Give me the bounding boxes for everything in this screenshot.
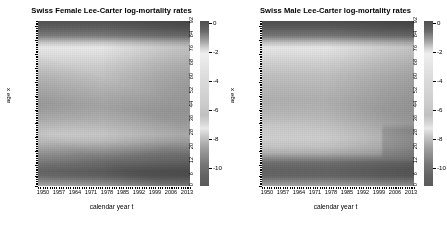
x-minor-tick — [178, 187, 179, 189]
y-tick-36: 36 — [189, 115, 195, 121]
y-tick-20: 20 — [189, 143, 195, 149]
cb-label-m10: -10 — [213, 165, 222, 171]
y-tick-68: 68 — [413, 59, 419, 65]
colorbar-gradient — [200, 21, 209, 186]
x-minor-tick — [190, 187, 191, 189]
y-tick-52: 52 — [413, 87, 419, 93]
y-minor-tick — [36, 118, 38, 119]
x-minor-tick — [112, 187, 113, 189]
x-major-tick — [395, 187, 396, 189]
y-minor-tick — [260, 162, 262, 163]
y-minor-tick — [36, 78, 38, 79]
y-minor-tick — [36, 63, 38, 64]
x-minor-tick — [135, 187, 136, 189]
x-minor-tick — [68, 187, 69, 189]
x-minor-tick — [86, 187, 87, 189]
x-minor-tick — [70, 187, 71, 189]
cb-tickmark-m8 — [209, 139, 212, 140]
x-minor-tick — [405, 187, 406, 189]
y-major-tick — [259, 110, 262, 111]
y-minor-tick — [36, 75, 38, 76]
x-minor-tick — [285, 187, 286, 189]
colorbar-gradient — [424, 21, 433, 186]
y-major-tick — [35, 151, 38, 152]
x-minor-tick — [336, 187, 337, 189]
x-minor-tick — [73, 187, 74, 189]
y-minor-tick — [260, 118, 262, 119]
y-tick-6: 6 — [413, 172, 419, 175]
x-minor-tick — [116, 187, 117, 189]
y-minor-tick — [260, 172, 262, 173]
x-minor-tick — [274, 187, 275, 189]
y-minor-tick — [260, 57, 262, 58]
x-minor-tick — [354, 187, 355, 189]
y-minor-tick — [260, 47, 262, 48]
y-major-tick — [259, 123, 262, 124]
y-minor-tick — [260, 181, 262, 182]
y-axis-title-female: age x — [4, 88, 11, 103]
x-minor-tick — [303, 187, 304, 189]
x-minor-tick — [167, 187, 168, 189]
y-minor-tick — [36, 64, 38, 65]
y-minor-tick — [260, 153, 262, 154]
y-tick-44: 44 — [413, 101, 419, 107]
x-minor-tick — [96, 187, 97, 189]
y-minor-tick — [36, 120, 38, 121]
y-minor-tick — [260, 37, 262, 38]
x-minor-tick — [414, 187, 415, 189]
x-minor-tick — [137, 187, 138, 189]
y-major-tick — [35, 40, 38, 41]
y-major-tick — [259, 151, 262, 152]
heatmap-pixel-noise — [262, 21, 414, 186]
y-tick-84: 84 — [413, 31, 419, 37]
x-minor-tick — [382, 187, 383, 189]
x-minor-tick — [278, 187, 279, 189]
y-minor-tick — [36, 61, 38, 62]
y-minor-tick — [36, 92, 38, 93]
y-minor-tick — [260, 97, 262, 98]
y-minor-tick — [260, 75, 262, 76]
y-minor-tick — [260, 64, 262, 65]
y-minor-tick — [36, 117, 38, 118]
x-major-tick — [315, 187, 316, 189]
x-minor-tick — [105, 187, 106, 189]
y-tick-60: 60 — [189, 73, 195, 79]
y-minor-tick — [36, 146, 38, 147]
y-major-tick — [35, 54, 38, 55]
x-minor-tick — [98, 187, 99, 189]
x-tick-2013: 2013 — [177, 189, 197, 195]
x-minor-tick — [290, 187, 291, 189]
x-minor-tick — [146, 187, 147, 189]
y-minor-tick — [260, 89, 262, 90]
y-minor-tick — [36, 30, 38, 31]
y-minor-tick — [260, 143, 262, 144]
x-major-tick — [187, 187, 188, 189]
x-minor-tick — [79, 187, 80, 189]
y-minor-tick — [260, 28, 262, 29]
y-minor-tick — [36, 101, 38, 102]
x-minor-tick — [38, 187, 39, 189]
cb-tickmark-m6 — [209, 110, 212, 111]
y-minor-tick — [36, 134, 38, 135]
x-minor-tick — [373, 187, 374, 189]
y-minor-tick — [260, 104, 262, 105]
x-minor-tick — [158, 187, 159, 189]
y-minor-tick — [36, 56, 38, 57]
x-minor-tick — [389, 187, 390, 189]
x-minor-tick — [109, 187, 110, 189]
y-minor-tick — [260, 35, 262, 36]
y-minor-tick — [36, 70, 38, 71]
cb-label-m2: -2 — [437, 49, 443, 55]
y-minor-tick — [36, 167, 38, 168]
cb-tickmark-m10 — [433, 168, 436, 169]
y-minor-tick — [260, 103, 262, 104]
cb-label-m8: -8 — [213, 136, 219, 142]
y-major-tick — [35, 186, 38, 187]
y-minor-tick — [260, 33, 262, 34]
y-tick-12: 12 — [413, 157, 419, 163]
y-minor-tick — [260, 106, 262, 107]
x-minor-tick — [151, 187, 152, 189]
y-tick-76: 76 — [189, 45, 195, 51]
x-minor-tick — [66, 187, 67, 189]
y-tick-84: 84 — [189, 31, 195, 37]
